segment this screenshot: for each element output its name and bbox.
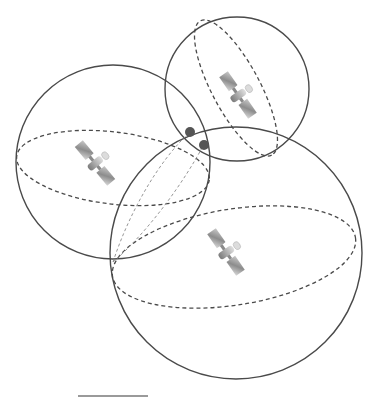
sphere-outline xyxy=(165,17,309,161)
satellite-icon xyxy=(205,222,254,277)
lens-arc xyxy=(113,134,188,262)
sphere-outline xyxy=(16,65,210,259)
lens-arc xyxy=(113,146,203,262)
sphere-bottom-large xyxy=(105,127,363,379)
satellite-icon xyxy=(217,65,266,120)
trilateration-diagram xyxy=(0,0,373,397)
sphere-left xyxy=(12,65,213,259)
sphere-top-right xyxy=(165,10,309,167)
satellite-icon xyxy=(72,134,123,188)
intersection-point xyxy=(185,127,195,137)
sphere-equator xyxy=(12,120,213,215)
intersection-point xyxy=(199,140,209,150)
sphere-equator xyxy=(179,10,293,167)
